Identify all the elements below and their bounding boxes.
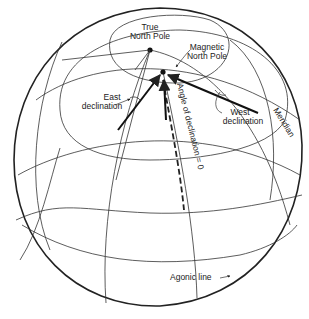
parallel-lines [16, 69, 302, 262]
meridian-lines [20, 40, 290, 303]
label-east-declination-2: declination [82, 101, 123, 111]
magnetic-north-pole-dot [160, 69, 165, 74]
true-pole-lines [62, 50, 150, 180]
label-magnetic-north-2: North Pole [187, 51, 227, 61]
label-west-declination-2: declination [223, 116, 264, 126]
globe-declination-diagram: True North Pole Magnetic North Pole East… [0, 0, 309, 319]
label-agonic-line: Agonic line [170, 272, 212, 282]
leader-lines [115, 50, 230, 278]
label-meridian: Meridian [271, 106, 297, 139]
label-true-north-2: North Pole [130, 31, 170, 41]
